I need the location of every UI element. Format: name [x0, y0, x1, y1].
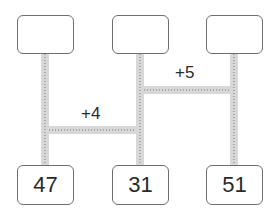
bottom-box-1: 47	[17, 165, 74, 205]
vertical-pipe-3	[230, 54, 238, 166]
rung-plus-5	[144, 86, 230, 94]
rung-plus-4	[49, 126, 136, 134]
bottom-box-3: 51	[206, 165, 263, 205]
top-box-1[interactable]	[17, 15, 74, 54]
vertical-pipe-1	[41, 54, 49, 166]
top-box-2[interactable]	[112, 15, 169, 54]
rung-label-plus-4: +4	[81, 104, 100, 124]
bottom-box-2: 31	[112, 165, 169, 205]
top-box-3[interactable]	[206, 15, 263, 54]
rung-label-plus-5: +5	[175, 63, 194, 83]
vertical-pipe-2	[136, 54, 144, 166]
